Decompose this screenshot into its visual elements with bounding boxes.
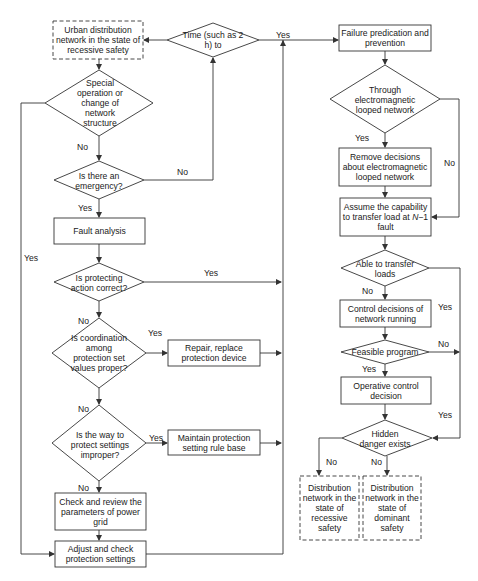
- edge-label-protecting-yes: Yes: [204, 268, 218, 278]
- adjust-label: Adjust and check protection settings: [55, 541, 146, 567]
- edge-label-emergency-yes: Yes: [78, 203, 92, 213]
- edge-label-feasible-yes: Yes: [362, 364, 376, 374]
- end-dominant-label: Distribution network in the state of dom…: [365, 478, 419, 538]
- able-label: Able to transfer loads: [355, 258, 415, 280]
- operative-label: Operative control decision: [341, 377, 431, 404]
- edge-label-feasible-no: No: [438, 339, 449, 349]
- coordination-label: Is coordination among protection set val…: [70, 330, 128, 376]
- edge-label-check-no: No: [78, 483, 89, 493]
- edge-label-special-no: No: [77, 142, 88, 152]
- special-op-label: Special operation or change of network s…: [70, 80, 130, 126]
- edge-label-special-yes: Yes: [24, 253, 38, 263]
- start-node-label: Urban distribution network in the state …: [53, 21, 143, 59]
- edge-label-through-no: No: [444, 158, 455, 168]
- edge-label-emergency-no: No: [177, 167, 188, 177]
- hidden-label: Hidden danger exists: [357, 428, 413, 450]
- flowchart: Urban distribution network in the state …: [0, 0, 478, 581]
- edge-label-able-yes: Yes: [438, 302, 452, 312]
- way-label: Is the way to protect settings improper?: [70, 428, 130, 462]
- fault-analysis-label: Fault analysis: [54, 218, 145, 244]
- edge-label-coordination-yes: Yes: [148, 328, 162, 338]
- feasible-label: Feasible program: [345, 346, 425, 358]
- edge-label-hidden-no-left: No: [326, 457, 337, 467]
- edge-label-hidden-no-right: No: [371, 457, 382, 467]
- remove-decisions-label: Remove decisions about electromagnetic l…: [339, 148, 431, 186]
- edge-label-hidden-yes: Yes: [438, 410, 452, 420]
- edge-label-able-no: No: [362, 286, 373, 296]
- edge-label-time-yes: Yes: [276, 30, 290, 40]
- edge-label-way-no: No: [78, 404, 89, 414]
- end-recessive-label: Distribution network in the state of rec…: [302, 478, 357, 538]
- failure-pred-label: Failure predication and prevention: [339, 25, 431, 51]
- control-label: Control decisions of network running: [340, 300, 431, 327]
- protecting-label: Is protecting action correct?: [68, 272, 130, 294]
- emergency-label: Is there an emergency?: [72, 170, 126, 192]
- maintain-label: Maintain protection setting rule base: [168, 430, 260, 455]
- check-review-label: Check and review the parameters of power…: [57, 493, 144, 530]
- through-label: Through electromagnetic looped network: [352, 84, 418, 116]
- repair-label: Repair, replace protection device: [168, 340, 260, 366]
- time-diamond-label: Time (such as 2 h) to: [180, 27, 246, 53]
- edge-label-through-yes: Yes: [355, 133, 369, 143]
- edge-label-protecting-no: No: [78, 316, 89, 326]
- edge-label-way-yes: Yes: [149, 433, 163, 443]
- assume-label: Assume the capability to transfer load a…: [340, 198, 431, 236]
